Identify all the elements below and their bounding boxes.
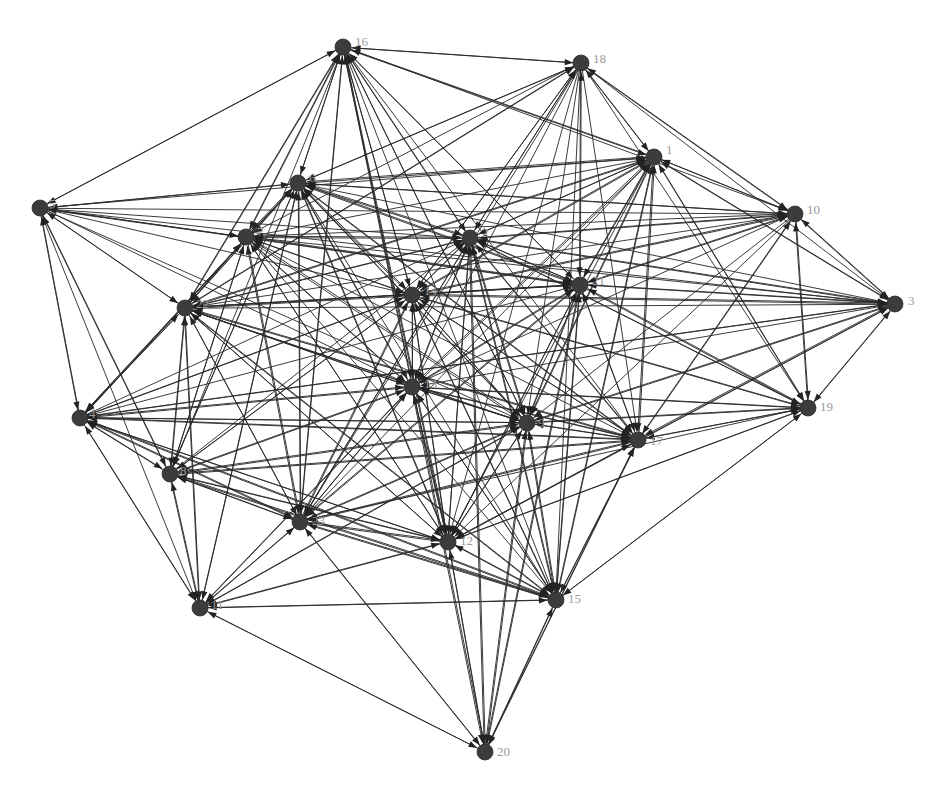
graph-edge [454,444,630,539]
graph-edge [207,544,440,606]
graph-edge [252,243,407,383]
graph-edge [206,427,520,604]
graph-edge [190,53,340,301]
edge-arrowhead [546,608,552,617]
node-label: 13 [424,376,437,391]
node-circle[interactable] [519,415,535,431]
node-circle[interactable] [162,466,178,482]
node-label: 12 [460,533,473,548]
node-circle[interactable] [404,287,420,303]
graph-edge [352,48,575,63]
graph-edge [250,54,340,230]
graph-node-3[interactable]: 3 [887,293,915,312]
nodes-layer: 1234567891011121314151617181920212223 [32,34,915,760]
edge-arrowhead [300,165,306,174]
graph-node-16[interactable]: 16 [335,34,369,55]
node-circle[interactable] [572,277,588,293]
node-label: 19 [820,399,833,414]
node-label: 6 [309,170,316,185]
network-graph-svg: 1234567891011121314151617181920212223 [0,0,950,803]
node-circle[interactable] [462,230,478,246]
graph-node-10[interactable]: 10 [787,202,820,222]
graph-edge [473,70,576,232]
edge-arrowhead [208,612,217,619]
graph-edge [345,55,411,380]
node-circle[interactable] [177,300,193,316]
node-circle[interactable] [404,379,420,395]
edge-arrowhead [326,50,335,57]
node-circle[interactable] [646,149,662,165]
node-circle[interactable] [192,600,208,616]
node-label: 14 [424,283,438,298]
graph-edge [208,612,479,749]
edge-arrowhead [475,221,482,230]
node-label: 20 [497,744,510,759]
edge-arrowhead [159,457,166,466]
graph-edge [417,162,648,381]
node-circle[interactable] [477,744,493,760]
graph-edge [455,545,549,596]
graph-edge [562,414,802,597]
edge-arrowhead [453,229,462,235]
graph-edge [87,423,164,471]
graph-edge [801,219,889,299]
node-circle[interactable] [440,534,456,550]
node-circle[interactable] [887,296,903,312]
node-label: 18 [593,51,606,66]
node-circle[interactable] [238,229,254,245]
graph-node-19[interactable]: 19 [800,399,833,416]
node-circle[interactable] [335,39,351,55]
graph-edge [253,236,462,237]
network-graph-canvas: 1234567891011121314151617181920212223 [0,0,950,803]
node-label: 8 [180,463,187,478]
node-circle[interactable] [290,175,306,191]
graph-edge [206,528,294,604]
node-label: 7 [257,224,264,239]
graph-edge [813,311,890,403]
graph-edge [47,213,179,304]
graph-edge [42,217,79,412]
edge-arrowhead [352,50,361,56]
node-circle[interactable] [72,410,88,426]
node-label: 3 [908,293,915,308]
graph-node-9[interactable]: 9 [519,415,545,431]
graph-edge [89,420,551,596]
edge-arrowhead [169,296,178,303]
node-label: 22 [196,296,209,311]
graph-edge [43,216,166,468]
node-label: 11 [211,597,224,612]
edge-arrowhead [43,216,50,225]
node-circle[interactable] [32,200,48,216]
graph-edge [642,221,790,434]
node-circle[interactable] [787,206,803,222]
graph-edge [529,431,556,593]
node-label: 9 [538,415,545,430]
node-label: 1 [666,142,673,157]
node-label: 21 [592,273,605,288]
graph-edge [486,292,578,744]
node-label: 5 [49,196,56,211]
edge-arrowhead [627,448,634,457]
graph-edge [478,240,888,304]
graph-edge [642,221,790,434]
edge-arrowhead [565,59,574,65]
node-circle[interactable] [800,400,816,416]
edge-arrowhead [154,462,163,469]
graph-edge [588,68,789,210]
graph-edge [300,55,340,176]
graph-node-18[interactable]: 18 [573,51,606,71]
edge-arrowhead [805,391,811,400]
node-circle[interactable] [573,55,589,71]
node-circle[interactable] [630,432,646,448]
graph-edge [179,440,632,473]
node-label: 17 [650,433,664,448]
node-label: 15 [568,591,581,606]
graph-node-20[interactable]: 20 [477,744,510,760]
node-label: 10 [807,202,820,217]
node-label: 16 [355,34,369,49]
node-circle[interactable] [548,592,564,608]
node-circle[interactable] [292,514,308,530]
edges-layer [41,48,891,749]
graph-edge [472,244,524,414]
edge-arrowhead [641,142,649,151]
